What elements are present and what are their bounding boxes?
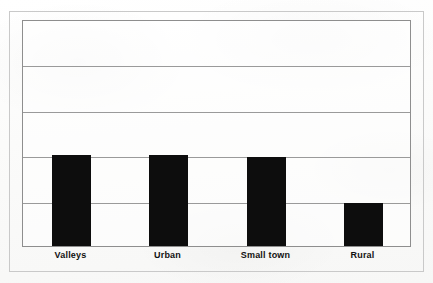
x-label-valleys: Valleys [22, 249, 119, 261]
bars-layer [23, 21, 410, 246]
bar-valleys [52, 155, 91, 246]
x-label-small-town: Small town [217, 249, 314, 261]
bar-chart-figure: ValleysUrbanSmall townRural [0, 0, 433, 283]
x-label-rural: Rural [314, 249, 411, 261]
x-label-urban: Urban [119, 249, 216, 261]
bar-rural [344, 203, 383, 246]
bar-small-town [247, 157, 286, 246]
plot-area [22, 20, 411, 247]
x-axis-labels: ValleysUrbanSmall townRural [22, 249, 411, 267]
bar-urban [149, 155, 188, 246]
